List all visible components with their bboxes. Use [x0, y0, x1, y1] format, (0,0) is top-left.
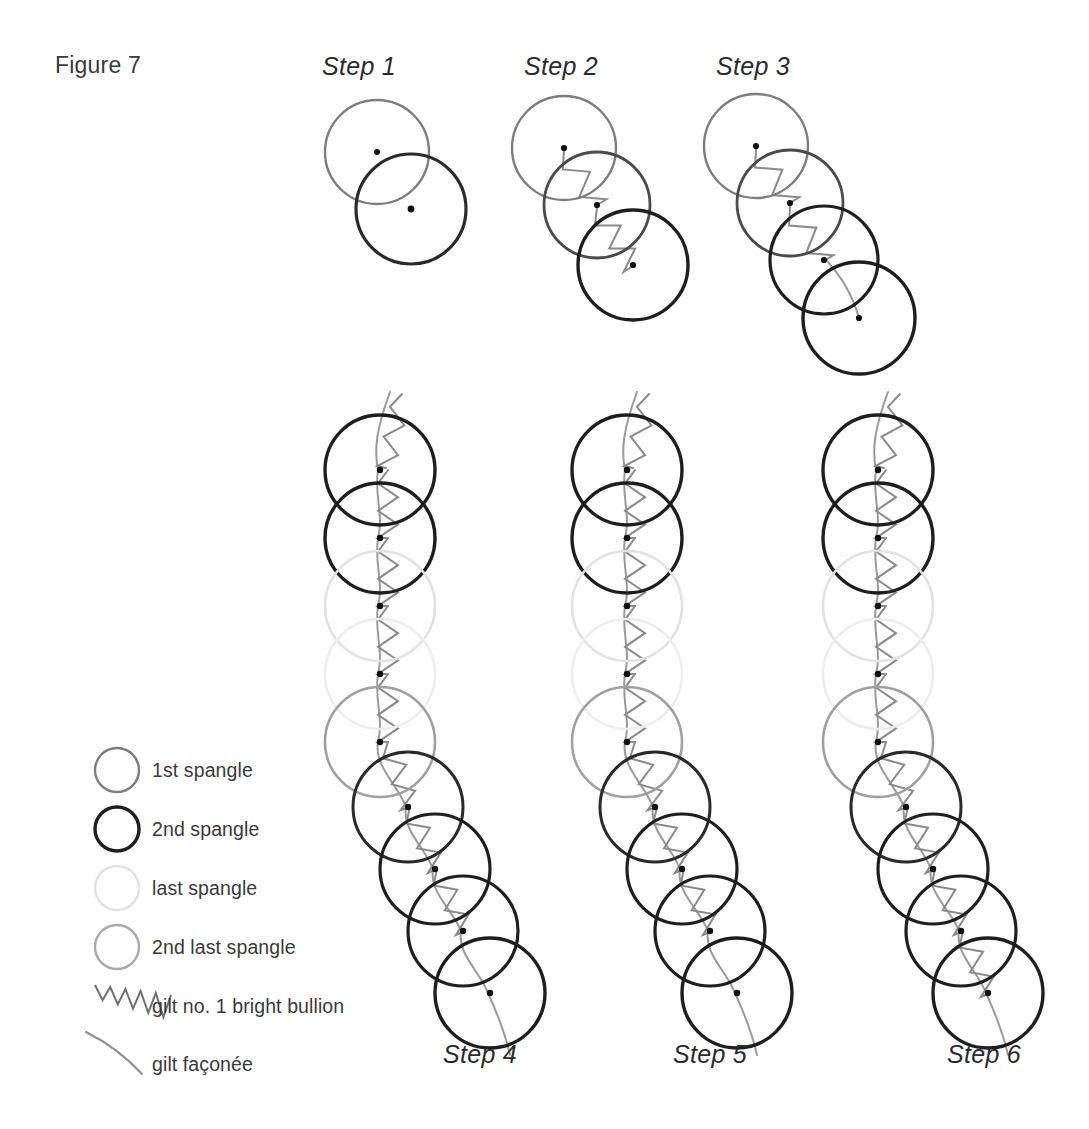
- legend-second-spangle-swatch-icon: [95, 807, 139, 851]
- step-4-bullion-1: [378, 470, 398, 538]
- step-1-center-dot-2: [408, 206, 415, 213]
- step-label-1: Step 1: [322, 52, 396, 81]
- step-2-center-dot-3: [630, 262, 636, 268]
- step-5-bullion-3: [625, 606, 645, 674]
- step-4-bullion-3: [378, 606, 398, 674]
- step-4-center-dot-2: [377, 535, 383, 541]
- step-3-center-dot-3: [821, 257, 827, 263]
- legend-second-last-spangle-swatch-icon: [95, 925, 139, 969]
- step-5-center-dot-7: [679, 866, 685, 872]
- step-5-center-dot-1: [624, 467, 630, 473]
- step-2-center-dot-2: [594, 202, 600, 208]
- step-5-bullion-4: [625, 674, 645, 742]
- step-5-bullion-1: [625, 470, 645, 538]
- legend-label-bullion: gilt no. 1 bright bullion: [152, 995, 344, 1018]
- legend-last-spangle-swatch-icon: [95, 866, 139, 910]
- step-label-6: Step 6: [947, 1040, 1021, 1069]
- step-6-diagram: [823, 392, 1043, 1055]
- legend-label-first-spangle: 1st spangle: [152, 759, 253, 782]
- step-5-center-dot-5: [624, 739, 630, 745]
- step-label-5: Step 5: [673, 1040, 747, 1069]
- step-5-center-dot-3: [624, 603, 630, 609]
- figure-canvas: [0, 0, 1089, 1129]
- step-6-faconee-thread: [874, 392, 1008, 1055]
- step-6-bullion-1: [876, 470, 896, 538]
- step-4-center-dot-9: [487, 990, 493, 996]
- step-3-faconee-1: [824, 258, 859, 318]
- step-6-center-dot-3: [875, 603, 881, 609]
- figure-root: Figure 7 Step 1 Step 2 Step 3 Step 4 Ste…: [0, 0, 1089, 1129]
- step-6-center-dot-8: [958, 928, 964, 934]
- step-label-3: Step 3: [716, 52, 790, 81]
- step-3-center-dot-4: [856, 315, 862, 321]
- legend-swatches: [86, 748, 171, 1074]
- step-4-center-dot-6: [405, 804, 411, 810]
- step-6-bullion-4: [876, 674, 896, 742]
- step-6-bullion-tail: [875, 394, 902, 468]
- legend-label-second-last-spangle: 2nd last spangle: [152, 936, 296, 959]
- step-6-bullion-3: [876, 606, 896, 674]
- legend-faconee-swatch-icon: [86, 1032, 142, 1074]
- step-6-center-dot-9: [985, 990, 991, 996]
- legend-label-last-spangle: last spangle: [152, 877, 257, 900]
- step-1-center-dot-1: [374, 149, 380, 155]
- step-4-center-dot-5: [377, 739, 383, 745]
- step-5-diagram: [572, 392, 792, 1055]
- step-4-bullion-2: [378, 538, 398, 606]
- step-5-center-dot-6: [652, 804, 658, 810]
- step-6-center-dot-5: [875, 739, 881, 745]
- step-6-center-dot-6: [903, 804, 909, 810]
- step-5-bullion-2: [625, 538, 645, 606]
- step-6-center-dot-2: [875, 535, 881, 541]
- step-5-bullion-tail: [624, 394, 651, 468]
- step-4-center-dot-7: [432, 866, 438, 872]
- step-4-faconee-thread: [376, 392, 510, 1055]
- step-4-center-dot-8: [460, 928, 466, 934]
- step-2-diagram: [512, 96, 688, 320]
- step-4-bullion-tail: [377, 394, 404, 468]
- step-5-faconee-thread: [623, 392, 757, 1055]
- step-4-diagram: [325, 392, 545, 1055]
- step-4-center-dot-4: [377, 671, 383, 677]
- step-6-center-dot-7: [930, 866, 936, 872]
- step-5-center-dot-8: [707, 928, 713, 934]
- step-label-4: Step 4: [443, 1040, 517, 1069]
- step-3-center-dot-2: [787, 200, 793, 206]
- step-label-2: Step 2: [524, 52, 598, 81]
- top-row-diagrams: [325, 94, 915, 374]
- legend-label-second-spangle: 2nd spangle: [152, 818, 259, 841]
- step-5-center-dot-4: [624, 671, 630, 677]
- step-3-diagram: [704, 94, 915, 374]
- legend-label-faconee: gilt façonée: [152, 1053, 253, 1076]
- step-3-center-dot-1: [753, 143, 759, 149]
- step-6-bullion-2: [876, 538, 896, 606]
- step-1-diagram: [325, 100, 466, 264]
- step-5-center-dot-9: [734, 990, 740, 996]
- step-6-center-dot-1: [875, 467, 881, 473]
- step-4-center-dot-3: [377, 603, 383, 609]
- step-5-center-dot-2: [624, 535, 630, 541]
- step-2-center-dot-1: [561, 145, 567, 151]
- figure-title: Figure 7: [55, 52, 141, 79]
- step-4-bullion-4: [378, 674, 398, 742]
- step-6-center-dot-4: [875, 671, 881, 677]
- step-4-center-dot-1: [377, 467, 383, 473]
- step-2-bullion-2: [595, 208, 635, 272]
- legend-first-spangle-swatch-icon: [95, 748, 139, 792]
- bottom-row-diagrams: [325, 392, 1043, 1055]
